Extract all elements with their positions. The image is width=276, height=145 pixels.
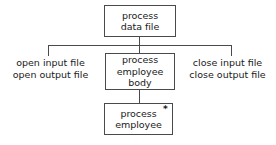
connector-bus-to-middle-box xyxy=(139,45,140,53)
node-process-employee-body-line-2: employee xyxy=(117,66,164,78)
node-process-data-file: process data file xyxy=(104,5,176,37)
node-process-employee-body-line-3: body xyxy=(128,77,151,89)
label-open-input-file: open input file xyxy=(4,57,97,69)
node-process-employee-body: process employee body xyxy=(105,53,175,90)
connector-top-to-bus xyxy=(139,37,140,45)
node-process-employee-body-line-1: process xyxy=(122,54,158,66)
connector-horizontal-bus xyxy=(48,45,232,46)
label-close-files: close input file close output file xyxy=(180,57,275,80)
label-close-output-file: close output file xyxy=(180,69,275,81)
node-process-data-file-line-2: data file xyxy=(121,21,159,33)
node-process-employee-line-1: process xyxy=(120,108,156,120)
connector-bus-to-left-label xyxy=(48,45,49,56)
node-process-data-file-line-1: process xyxy=(122,10,158,22)
connector-middle-to-bottom-box xyxy=(139,90,140,103)
label-close-input-file: close input file xyxy=(180,57,275,69)
node-process-employee-line-2: employee xyxy=(115,119,162,131)
iteration-asterisk-icon: * xyxy=(163,105,168,114)
label-open-output-file: open output file xyxy=(4,69,97,81)
structure-chart-diagram: process data file process employee body … xyxy=(0,0,276,145)
label-open-files: open input file open output file xyxy=(4,57,97,80)
connector-bus-to-right-label xyxy=(231,45,232,56)
